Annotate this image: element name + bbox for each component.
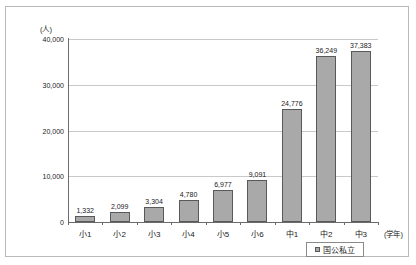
x-axis-line — [68, 222, 379, 223]
x-axis-tick — [137, 222, 138, 225]
bar-value-label: 2,099 — [111, 203, 129, 210]
bar-slot: 4,780 — [171, 39, 205, 222]
bar — [351, 51, 371, 222]
x-axis-tick — [171, 222, 172, 225]
legend-label: 国公私立 — [323, 244, 355, 255]
bar-slot: 6,977 — [206, 39, 240, 222]
y-axis-tick-labels: 010,00020,00030,00040,000 — [6, 7, 64, 265]
bar-value-label: 3,304 — [145, 198, 163, 205]
bar — [110, 212, 130, 222]
bar-slot: 1,332 — [68, 39, 102, 222]
x-axis-tick — [378, 222, 379, 225]
x-axis-category-label: 小3 — [148, 228, 160, 239]
x-axis-unit-label: (学年) — [384, 228, 403, 239]
x-axis-category-label: 小2 — [113, 228, 125, 239]
x-axis-category-label: 小1 — [79, 228, 91, 239]
x-axis-tick — [206, 222, 207, 225]
bar — [213, 190, 233, 222]
bar-value-label: 6,977 — [214, 181, 232, 188]
bar-value-label: 1,332 — [76, 207, 94, 214]
bar-value-label: 24,776 — [281, 100, 302, 107]
x-axis-tick — [68, 222, 69, 225]
bar-slot: 9,091 — [240, 39, 274, 222]
y-axis-tick-label: 10,000 — [43, 173, 64, 180]
bar — [247, 180, 267, 222]
x-axis-category-label: 中3 — [355, 228, 367, 239]
y-axis-tick-label: 30,000 — [43, 81, 64, 88]
chart-frame: (人) 010,00020,00030,00040,000 1,3322,099… — [5, 6, 409, 257]
x-axis-tick — [344, 222, 345, 225]
bar-value-label: 36,249 — [316, 47, 337, 54]
legend-swatch-icon — [315, 247, 320, 252]
plot-area: 1,3322,0993,3044,7806,9779,09124,77636,2… — [68, 39, 378, 222]
bar — [179, 200, 199, 222]
chart-legend: 国公私立 — [306, 242, 364, 257]
y-axis-tick-label: 20,000 — [43, 127, 64, 134]
y-axis-tick-label: 0 — [60, 219, 64, 226]
y-axis-line — [68, 38, 69, 223]
bar-slot: 24,776 — [275, 39, 309, 222]
x-axis-tick — [102, 222, 103, 225]
x-axis-category-label: 小6 — [251, 228, 263, 239]
bar-slot: 37,383 — [344, 39, 378, 222]
x-axis-tick — [309, 222, 310, 225]
bar-value-label: 4,780 — [180, 191, 198, 198]
bar — [282, 109, 302, 222]
bar-value-label: 9,091 — [249, 171, 267, 178]
bar — [144, 207, 164, 222]
bar-value-label: 37,383 — [350, 42, 371, 49]
x-axis-category-label: 小5 — [217, 228, 229, 239]
x-axis-category-label: 中2 — [320, 228, 332, 239]
bar-slot: 36,249 — [309, 39, 343, 222]
bar-slot: 3,304 — [137, 39, 171, 222]
x-axis-tick — [275, 222, 276, 225]
y-axis-tick-label: 40,000 — [43, 36, 64, 43]
bar-slot: 2,099 — [102, 39, 136, 222]
x-axis-tick — [240, 222, 241, 225]
bar — [316, 56, 336, 222]
x-axis-category-label: 中1 — [286, 228, 298, 239]
x-axis-category-label: 小4 — [182, 228, 194, 239]
